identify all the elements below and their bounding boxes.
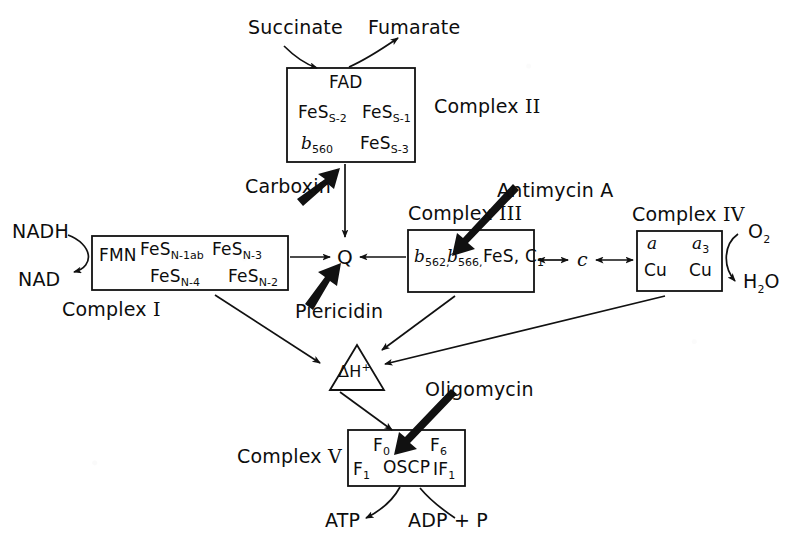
complex4-title: Complex IV	[632, 205, 745, 224]
complex4-a3: a3	[692, 235, 709, 255]
complex3-fes-c1: FeS, C1	[483, 248, 544, 268]
complex1-fes-n4: FeSN-4	[150, 268, 200, 288]
complex4-cu-a: Cu	[644, 262, 667, 279]
complex2-fad: FAD	[329, 74, 363, 91]
complex3-b562: b562,	[414, 248, 450, 268]
label-o2: O2	[748, 222, 770, 245]
label-q-pool: Q	[337, 247, 353, 267]
label-adp-p: ADP + P	[408, 511, 488, 530]
complex2-fes-s2: FeSS-2	[298, 104, 347, 124]
label-h2o: H2O	[743, 272, 780, 295]
label-delta-h-plus: ΔH+	[338, 362, 371, 380]
label-piericidin: Piericidin	[295, 302, 383, 321]
complex5-oscp: OSCP	[383, 459, 430, 476]
label-nad: NAD	[18, 270, 60, 289]
complex1-title: Complex I	[62, 300, 161, 319]
complex1-fmn: FMN	[99, 247, 137, 264]
label-nadh: NADH	[12, 222, 69, 241]
complex5-f6: F6	[430, 437, 447, 457]
label-atp: ATP	[325, 511, 360, 530]
complex3-title: Complex III	[408, 204, 522, 223]
complex5-f1: F1	[353, 461, 370, 481]
complex3-b566: b566,	[447, 248, 483, 268]
label-carboxin: Carboxin	[245, 177, 331, 196]
complex2-b560: b560	[301, 135, 333, 155]
complex2-title: Complex II	[434, 97, 540, 116]
label-antimycin-a: Antimycin A	[497, 181, 614, 200]
complex5-title: Complex V	[237, 447, 342, 466]
complex1-fes-n1ab: FeSN-1ab	[140, 241, 204, 261]
etc-diagram: Succinate Fumarate FAD FeSS-2 FeSS-1 b56…	[0, 0, 789, 551]
label-cytochrome-c: c	[577, 250, 588, 269]
complex1-fes-n2: FeSN-2	[228, 268, 278, 288]
label-succinate: Succinate	[248, 18, 343, 37]
complex2-fes-s3: FeSS-3	[360, 135, 409, 155]
complex1-fes-n3: FeSN-3	[212, 241, 262, 261]
complex2-fes-s1: FeSS-1	[362, 104, 411, 124]
complex4-cu-a3: Cu	[689, 262, 712, 279]
complex5-f0: F0	[373, 437, 390, 457]
label-fumarate: Fumarate	[368, 18, 460, 37]
complex5-if1: IF1	[433, 461, 455, 481]
complex4-a: a	[647, 235, 657, 252]
label-oligomycin: Oligomycin	[425, 380, 534, 399]
